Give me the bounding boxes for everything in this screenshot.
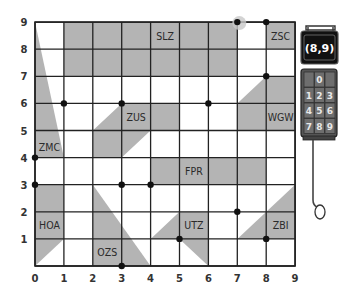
- y-tick-label: 7: [21, 71, 28, 82]
- x-tick-label: 6: [205, 273, 212, 284]
- keypad-key: [304, 72, 314, 87]
- region-label: ZBI: [273, 219, 289, 231]
- y-tick-label: 6: [21, 98, 28, 109]
- region-label: OZS: [97, 246, 117, 258]
- grid-point: [234, 19, 240, 25]
- x-tick-label: 8: [263, 273, 270, 284]
- x-tick-label: 7: [234, 273, 241, 284]
- x-tick-label: 5: [176, 273, 183, 284]
- grid-point: [119, 182, 125, 188]
- region-zmc: [35, 22, 64, 158]
- keypad-key-label: 7: [306, 122, 312, 132]
- grid-point: [147, 182, 153, 188]
- y-tick-label: 9: [21, 17, 28, 28]
- grid-point: [263, 19, 269, 25]
- y-tick-label: 4: [21, 153, 28, 164]
- keypad-key-label: 8: [316, 122, 322, 132]
- y-tick-label: 2: [21, 207, 28, 218]
- x-tick-label: 4: [147, 273, 154, 284]
- x-tick-label: 2: [89, 273, 96, 284]
- x-tick-label: 9: [292, 273, 299, 284]
- region-label: SLZ: [156, 30, 174, 42]
- keypad-key-label: 4: [306, 106, 312, 116]
- grid-point: [32, 182, 38, 188]
- grid-point: [263, 73, 269, 79]
- grid-point: [234, 209, 240, 215]
- coordinate-display: (8,9): [305, 42, 335, 55]
- coordinate-map: 0123456789123456789 SLZZSCZMCZUSWGWFPRHO…: [0, 0, 358, 296]
- region-label: UTZ: [184, 219, 204, 231]
- grid-point: [32, 154, 38, 160]
- keypad: 0123456789: [304, 72, 335, 134]
- keypad-key-label: 6: [327, 106, 333, 116]
- locator-device: (8,9) 0123456789: [301, 26, 338, 219]
- keypad-key: [325, 72, 335, 87]
- x-tick-label: 1: [60, 273, 67, 284]
- region-label: HOA: [39, 219, 60, 231]
- keypad-key-label: 3: [327, 91, 333, 101]
- keypad-key-label: 0: [316, 75, 322, 85]
- region-label: ZMC: [39, 141, 61, 153]
- grid-point: [119, 100, 125, 106]
- y-tick-label: 3: [21, 180, 28, 191]
- region-label: WGW: [268, 111, 295, 123]
- grid-point: [61, 100, 67, 106]
- region-label: ZSC: [271, 30, 290, 42]
- x-tick-label: 3: [118, 273, 125, 284]
- device-cord: [313, 140, 317, 207]
- keypad-key-label: 1: [306, 91, 312, 101]
- shaded-regions: [35, 22, 295, 266]
- region-label: ZUS: [126, 111, 145, 123]
- grid-point: [119, 263, 125, 269]
- region-label: FPR: [185, 165, 203, 177]
- device-clip-icon: [306, 26, 335, 30]
- grid-point: [205, 100, 211, 106]
- keypad-base: [303, 136, 335, 140]
- x-tick-label: 0: [32, 273, 39, 284]
- y-tick-label: 5: [21, 126, 28, 137]
- y-tick-label: 8: [21, 44, 28, 55]
- grid-point: [176, 236, 182, 242]
- cord-ring-icon: [315, 205, 325, 219]
- keypad-key-label: 2: [316, 91, 322, 101]
- y-tick-label: 1: [21, 234, 28, 245]
- grid-point: [263, 236, 269, 242]
- keypad-key-label: 9: [327, 122, 333, 132]
- keypad-key-label: 5: [316, 106, 322, 116]
